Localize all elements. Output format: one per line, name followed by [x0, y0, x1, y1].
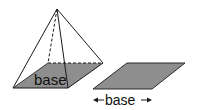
base-dimension-label: base	[105, 92, 136, 108]
arrow-right-icon	[147, 98, 152, 103]
pyramid-base-label: base	[34, 71, 67, 88]
pyramid-diagram: base base	[0, 0, 197, 110]
pyramid-lateral-edge-back-right	[57, 9, 103, 63]
base-parallelogram	[93, 63, 185, 89]
arrow-left-icon	[93, 98, 98, 103]
